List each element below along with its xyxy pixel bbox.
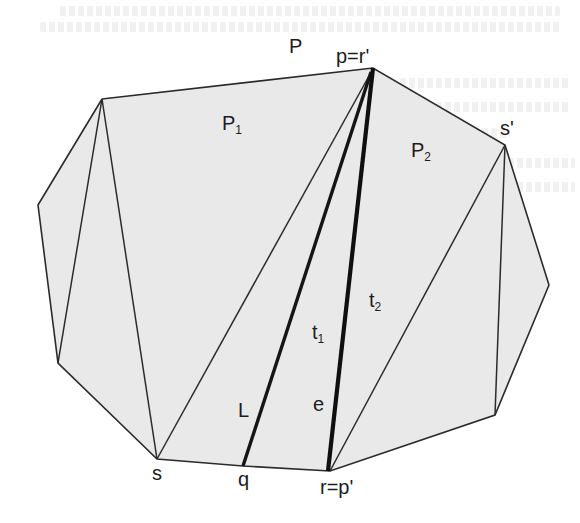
label-line-L: L <box>238 400 249 420</box>
label-top-vertex: p=r' <box>336 46 369 66</box>
label-text: s' <box>500 117 514 139</box>
triangulation-diagram <box>0 0 580 523</box>
label-text: L <box>238 399 249 421</box>
label-vertex-s-prime: s' <box>500 118 514 138</box>
label-triangle-t2: t2 <box>369 290 381 313</box>
label-subscript: 1 <box>235 123 242 137</box>
label-subpolygon-P1: P1 <box>222 113 242 136</box>
label-subscript: 1 <box>318 332 325 346</box>
label-edge-e: e <box>313 394 324 414</box>
label-point-q: q <box>238 469 249 489</box>
label-subpolygon-P2: P2 <box>411 140 431 163</box>
label-text: e <box>313 393 324 415</box>
label-vertex-s: s <box>152 463 162 483</box>
label-triangle-t1: t1 <box>312 322 324 345</box>
label-text: s <box>152 462 162 484</box>
label-text: P <box>289 35 302 57</box>
label-polygon-P: P <box>289 36 302 56</box>
label-text: r=p' <box>320 476 353 498</box>
polygon-P <box>38 68 549 471</box>
label-text: P <box>411 139 424 161</box>
label-subscript: 2 <box>375 300 382 314</box>
label-text: P <box>222 112 235 134</box>
label-subscript: 2 <box>424 150 431 164</box>
label-text: q <box>238 468 249 490</box>
label-text: p=r' <box>336 45 369 67</box>
label-bottom-vertex: r=p' <box>320 477 353 497</box>
